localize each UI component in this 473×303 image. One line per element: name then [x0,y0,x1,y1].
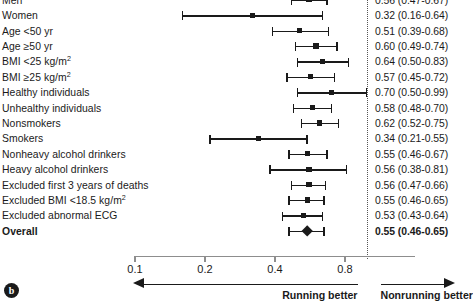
axis-tick [274,256,275,262]
ci-upper-cap [322,11,323,20]
panel-tag-b: b [4,283,19,298]
forest-row-label: Excluded abnormal ECG [2,208,117,223]
forest-row-value: 0.62 (0.52-0.75) [375,116,448,131]
axis-tick-label: 0.8 [337,263,352,275]
forest-row-value: 0.70 (0.50-0.99) [375,85,448,100]
forest-row-label: Excluded BMI <18.5 kg/m2 [2,193,126,208]
ci-lower-cap [291,181,292,190]
forest-row: BMI ≥25 kg/m20.57 (0.45-0.72) [0,70,462,85]
forest-row-label: Age ≥50 yr [2,39,53,54]
ci-upper-cap [325,181,326,190]
ci-upper-cap [338,119,339,128]
ci-lower-cap [209,135,210,144]
point-estimate-marker [250,13,255,18]
forest-row-value: 0.51 (0.39-0.68) [375,24,448,39]
point-estimate-marker [308,74,313,79]
forest-row-value: 0.58 (0.48-0.70) [375,101,448,116]
forest-row-label: BMI <25 kg/m2 [2,54,71,69]
point-estimate-marker [306,0,311,2]
ci-upper-cap [306,135,307,144]
ci-upper-cap [334,73,335,82]
ci-upper-cap [323,196,324,205]
ci-lower-cap [286,73,287,82]
forest-row-value: 0.56 (0.38-0.81) [375,162,448,177]
forest-row: Excluded BMI <18.5 kg/m20.55 (0.46-0.65) [0,193,462,208]
ci-lower-cap [295,42,296,51]
ci-lower-cap [182,11,183,20]
ci-upper-cap [323,227,324,236]
forest-row-label: Nonsmokers [2,116,61,131]
forest-row-value: 0.64 (0.50-0.83) [375,54,448,69]
axis-tick-label: 0.1 [127,263,142,275]
forest-row-label: Age <50 yr [2,24,53,39]
forest-row-label: Overall [2,224,38,239]
forest-row-label: Men [2,0,22,8]
forest-row: Excluded abnormal ECG0.53 (0.43-0.64) [0,208,462,223]
forest-row: Nonheavy alcohol drinkers0.55 (0.46-0.67… [0,147,462,162]
point-estimate-marker [329,90,334,95]
forest-row-value: 0.34 (0.21-0.55) [375,131,448,146]
axis-tick-label: 0.4 [267,263,282,275]
ci-upper-cap [326,0,327,5]
forest-row-label: Healthy individuals [2,85,90,100]
ci-lower-cap [291,0,292,5]
ci-lower-cap [272,27,273,36]
forest-row: Age ≥50 yr0.60 (0.49-0.74) [0,39,462,54]
forest-row: Excluded first 3 years of deaths0.56 (0.… [0,178,462,193]
point-estimate-marker [310,105,315,110]
forest-row: Unhealthy individuals0.58 (0.48-0.70) [0,101,462,116]
x-axis: 0.10.20.40.8 Running better Nonrunning b… [0,256,462,303]
forest-row-value: 0.55 (0.46-0.65) [375,193,448,208]
forest-row-value: 0.55 (0.46-0.65) [375,224,448,239]
ci-lower-cap [288,196,289,205]
forest-row: Healthy individuals0.70 (0.50-0.99) [0,85,462,100]
point-estimate-marker [305,197,310,202]
axis-tick-label: 0.2 [197,263,212,275]
label-superscript: 2 [122,192,126,201]
ci-lower-cap [297,58,298,67]
point-estimate-marker [320,59,325,64]
forest-row: Nonsmokers0.62 (0.52-0.75) [0,116,462,131]
ci-upper-cap [336,42,337,51]
forest-row-label: Women [2,8,38,23]
forest-row-label: Heavy alcohol drinkers [2,162,108,177]
axis-tick [344,256,345,262]
forest-row: Heavy alcohol drinkers0.56 (0.38-0.81) [0,162,462,177]
overall-diamond-marker [301,225,313,237]
forest-row-value: 0.32 (0.16-0.64) [375,8,448,23]
forest-row-value: 0.57 (0.45-0.72) [375,70,448,85]
axis-tick [134,256,135,262]
axis-tick [204,256,205,262]
running-better-label: Running better [282,289,357,301]
ci-upper-cap [322,212,323,221]
ci-lower-cap [288,150,289,159]
forest-row-value: 0.53 (0.43-0.64) [375,208,448,223]
forest-row: Men0.56 (0.47-0.67) [0,0,462,8]
forest-row: Overall0.55 (0.46-0.65) [0,224,462,239]
nonrunning-better-label: Nonrunning better [381,289,473,301]
forest-row: Women0.32 (0.16-0.64) [0,8,462,23]
nonrunning-better-arrow-head [444,278,455,288]
ci-lower-cap [282,212,283,221]
ci-lower-cap [293,104,294,113]
ci-upper-cap [348,58,349,67]
label-superscript: 2 [67,69,71,78]
forest-row-label: Excluded first 3 years of deaths [2,178,149,193]
point-estimate-marker [305,151,310,156]
forest-row-label: Smokers [2,131,43,146]
ci-lower-cap [288,227,289,236]
point-estimate-marker [256,136,261,141]
forest-row-value: 0.56 (0.47-0.66) [375,178,448,193]
forest-row: Smokers0.34 (0.21-0.55) [0,131,462,146]
ci-upper-cap [326,150,327,159]
forest-row-value: 0.56 (0.47-0.67) [375,0,448,8]
point-estimate-marker [306,167,311,172]
forest-row-label: Unhealthy individuals [2,101,101,116]
forest-row-value: 0.55 (0.46-0.67) [375,147,448,162]
forest-row-label: Nonheavy alcohol drinkers [2,147,126,162]
point-estimate-marker [306,182,311,187]
ci-lower-cap [269,165,270,174]
ci-upper-cap [328,27,329,36]
ci-upper-cap [331,104,332,113]
